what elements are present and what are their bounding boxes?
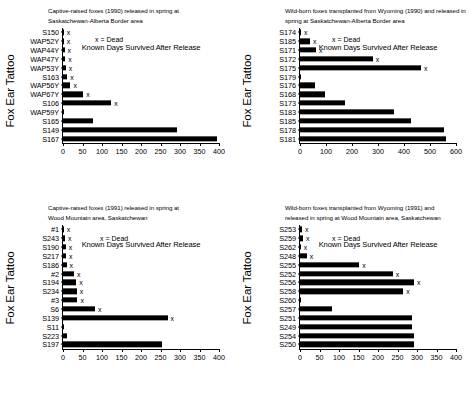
x-tick-label: 350	[194, 353, 206, 362]
y-tick-label: WAP67Y	[30, 90, 59, 99]
dead-marker: x	[80, 297, 84, 304]
y-tick-label: #1	[51, 225, 59, 234]
x-tick-label: 150	[116, 353, 128, 362]
x-tick-label: 400	[398, 147, 410, 156]
dead-marker: x	[86, 91, 90, 98]
y-axis-title: Fox Ear Tattoo	[239, 227, 255, 349]
x-tick-label: 0	[298, 353, 302, 362]
bar-row: S179	[300, 72, 456, 81]
bar-row: #1x	[63, 225, 219, 234]
bar	[63, 118, 93, 123]
plot-area: S253xS259xS262xS248xS255xS252xS256xS258x…	[299, 225, 456, 350]
x-tick-label: 100	[96, 147, 108, 156]
bar-row: WAP56Yx	[63, 81, 219, 90]
bar-row: S149	[63, 125, 219, 134]
bar	[300, 56, 373, 61]
bar	[300, 227, 302, 232]
bar	[300, 342, 414, 347]
chart-panel-captive-1991: Captive-raised foxes (1991) released in …	[0, 197, 237, 394]
chart-title: Captive-raised foxes (1991) released in …	[48, 203, 235, 222]
x-tick-label: 350	[431, 353, 443, 362]
chart-title-line-1: Wild-born foxes transplanted from Wyomin…	[285, 6, 472, 16]
x-tick-label: 250	[155, 147, 167, 156]
dead-marker: x	[396, 270, 400, 277]
y-tick-label: S183	[279, 108, 296, 117]
y-tick-label: S258	[279, 287, 296, 296]
y-tick-label: S168	[279, 90, 296, 99]
bar	[63, 227, 64, 232]
bar	[300, 109, 394, 114]
y-tick-label: #2	[51, 269, 59, 278]
bar-row: S168	[300, 90, 456, 99]
bar	[63, 30, 64, 35]
y-tick-label: S106	[42, 99, 59, 108]
chart-title-line-2: Saskatchewan-Alberta Border area	[48, 16, 235, 26]
chart-panel-wild-1991: Wild-born foxes transplanted from Wyomin…	[237, 197, 474, 394]
bar-row: S178	[300, 125, 456, 134]
bar-row: S139x	[63, 313, 219, 322]
x-tick-label: 50	[79, 353, 87, 362]
chart-panel-wild-1990: Wild-born foxes transplanted from Wyomin…	[237, 0, 474, 197]
y-tick-label: S257	[279, 305, 296, 314]
y-tick-label: S139	[42, 313, 59, 322]
bar	[300, 65, 421, 70]
bar-row: S163x	[63, 72, 219, 81]
bar-row: #2x	[63, 269, 219, 278]
chart-title-line-1: Wild-born foxes transplanted from Wyomin…	[285, 203, 472, 213]
bar	[300, 306, 332, 311]
x-tick-label: 300	[411, 353, 423, 362]
y-tick-label: S190	[42, 243, 59, 252]
x-tick-label: 400	[450, 353, 462, 362]
bar-row: S253x	[300, 225, 456, 234]
x-tick-label: 200	[346, 147, 358, 156]
bar-row: S255x	[300, 260, 456, 269]
bar	[63, 136, 217, 141]
x-tick-label: 100	[333, 353, 345, 362]
y-tick-label: S163	[42, 72, 59, 81]
x-tick-label: 300	[174, 353, 186, 362]
y-tick-label: S251	[279, 313, 296, 322]
y-tick-label: S259	[279, 234, 296, 243]
dead-marker: x	[73, 82, 77, 89]
dead-marker: x	[67, 29, 71, 36]
y-tick-label: S243	[42, 234, 59, 243]
y-tick-label: S174	[279, 28, 296, 37]
bar	[63, 127, 177, 132]
y-tick-label: S165	[42, 116, 59, 125]
dead-marker: x	[417, 279, 421, 286]
x-tick-label: 600	[450, 147, 462, 156]
bar	[63, 92, 83, 97]
bar-row: S150x	[63, 28, 219, 37]
dead-marker: x	[79, 279, 83, 286]
bar-row: S173	[300, 99, 456, 108]
dead-marker: x	[70, 73, 74, 80]
x-axis: 0100200300400500600	[300, 143, 456, 161]
dead-marker: x	[68, 55, 72, 62]
bar	[300, 127, 444, 132]
bar-row: S250	[300, 340, 456, 349]
chart-title-line-2: spring at Saskatchewan-Alberta Border ar…	[285, 16, 472, 26]
x-tick-label: 50	[316, 353, 324, 362]
chart-title: Wild-born foxes transplanted from Wyomin…	[285, 203, 472, 222]
x-tick-label: 100	[320, 147, 332, 156]
bar-row: S176	[300, 81, 456, 90]
x-axis-title: Known Days Survived After Release	[300, 240, 456, 249]
x-tick-label: 200	[372, 353, 384, 362]
dead-marker: x	[305, 226, 309, 233]
dead-marker: x	[77, 270, 81, 277]
bar	[300, 315, 412, 320]
bar-row: S223	[63, 331, 219, 340]
y-axis-title: Fox Ear Tattoo	[239, 30, 255, 152]
dead-marker: x	[424, 64, 428, 71]
chart-title-line-2: released in spring at Wood Mountain area…	[285, 213, 472, 223]
bar-row: WAP53Yx	[63, 63, 219, 72]
bar	[300, 83, 315, 88]
bar	[300, 262, 359, 267]
dead-marker: x	[70, 261, 74, 268]
chart-title-line-2: Wood Mountain area, Saskatchewan	[48, 213, 235, 223]
bar-row: WAP59Y	[63, 108, 219, 117]
y-tick-label: S217	[42, 251, 59, 260]
bar	[63, 333, 67, 338]
y-tick-label: S171	[279, 46, 296, 55]
bar	[300, 253, 307, 258]
